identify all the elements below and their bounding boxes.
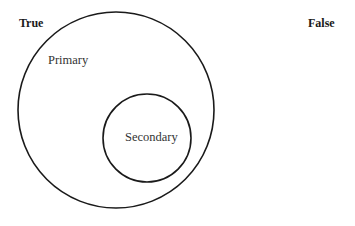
false-label: False (308, 16, 335, 31)
euler-diagram (0, 0, 355, 226)
primary-label: Primary (48, 53, 88, 68)
primary-circle (18, 12, 214, 208)
true-label: True (19, 16, 43, 31)
secondary-label: Secondary (125, 130, 178, 145)
